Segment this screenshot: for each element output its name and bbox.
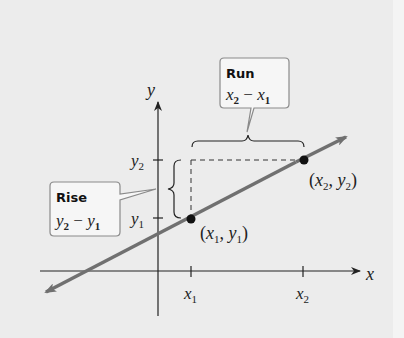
- point-1-label: (x1, y1): [200, 223, 248, 245]
- x-axis-label: x: [365, 264, 374, 284]
- x2-tick-label: x2: [295, 284, 309, 305]
- rise-expression: y2 − y1: [54, 211, 100, 232]
- y1-tick-label: y1: [129, 209, 144, 230]
- y-axis-label: y: [145, 80, 155, 100]
- y2-tick-label: y2: [129, 151, 144, 172]
- run-brace: [192, 135, 304, 147]
- rise-brace: [168, 160, 181, 218]
- point-1: [187, 215, 196, 224]
- slope-diagram: Run x2 − x1 Rise y2 − y1 y x x1 x2 y1 y2…: [0, 0, 404, 338]
- run-callout: Run x2 − x1: [220, 58, 289, 132]
- point-2: [300, 156, 309, 165]
- rise-title: Rise: [56, 190, 87, 205]
- run-expression: x2 − x1: [225, 85, 270, 106]
- x1-tick-label: x1: [183, 284, 197, 305]
- run-title: Run: [226, 66, 255, 81]
- point-2-label: (x2, y2): [309, 170, 357, 192]
